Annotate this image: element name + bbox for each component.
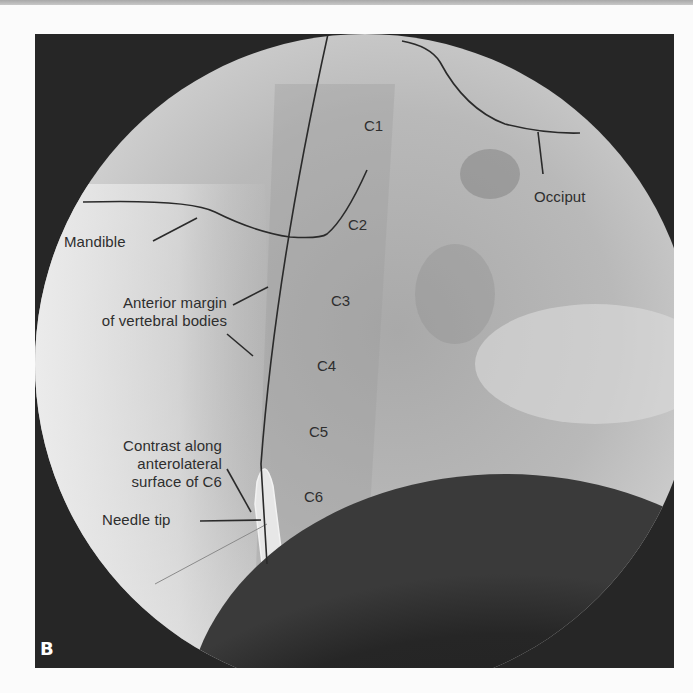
label-c5: C5 <box>309 423 328 440</box>
label-c1: C1 <box>364 117 383 134</box>
label-needle-tip: Needle tip <box>102 511 171 529</box>
label-contrast-line2: anterolateral <box>55 455 222 473</box>
label-mandible: Mandible <box>64 233 126 251</box>
label-c2: C2 <box>348 216 367 233</box>
panel-letter: B <box>40 638 54 659</box>
label-contrast-line3: surface of C6 <box>55 473 222 491</box>
xray-drawing <box>35 34 674 668</box>
label-c6: C6 <box>304 488 323 505</box>
fluoroscopy-image: C1 C2 C3 C4 C5 C6 Occiput Mandible Anter… <box>35 34 674 668</box>
label-contrast-line1: Contrast along <box>55 437 222 455</box>
label-anterior-margin-line2: of vertebral bodies <box>45 312 227 330</box>
label-occiput: Occiput <box>534 188 586 206</box>
label-contrast: Contrast along anterolateral surface of … <box>55 437 222 491</box>
label-c4: C4 <box>317 357 336 374</box>
top-rule <box>0 0 693 5</box>
label-anterior-margin: Anterior margin of vertebral bodies <box>45 294 227 330</box>
label-anterior-margin-line1: Anterior margin <box>45 294 227 312</box>
label-c3: C3 <box>331 292 350 309</box>
